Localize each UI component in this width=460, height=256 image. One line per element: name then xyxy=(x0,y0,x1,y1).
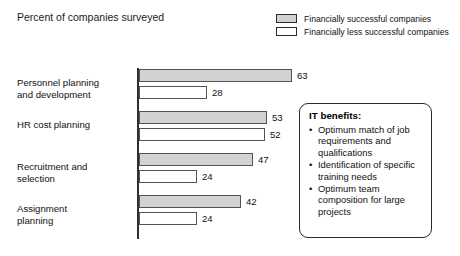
bar-successful xyxy=(139,69,292,82)
category-label-line1: Personnel planning xyxy=(17,77,99,88)
category-label-line1: Assignment xyxy=(17,203,67,214)
list-item: • Optimum team composition for large pro… xyxy=(309,183,424,217)
list-item-text: Optimum match of job requirements and qu… xyxy=(318,124,410,158)
callout-list: • Optimum match of job requirements and … xyxy=(309,124,424,217)
category-label-line1: Recruitment and xyxy=(17,161,87,172)
category-label-assignment-planning: Assignment planning xyxy=(17,203,135,226)
callout-title: IT benefits: xyxy=(309,110,424,122)
list-item-text: Optimum team composition for large proje… xyxy=(318,183,405,217)
category-label-line1: HR cost planning xyxy=(17,119,90,130)
bar-less-successful xyxy=(139,86,207,99)
category-label-line2: planning xyxy=(17,215,53,226)
chart-root: Percent of companies surveyed Financiall… xyxy=(0,0,460,256)
bar-successful xyxy=(139,195,241,208)
bar-value-successful: 42 xyxy=(246,195,257,208)
bar-value-successful: 63 xyxy=(297,69,308,82)
bar-value-less-successful: 52 xyxy=(270,128,281,141)
bar-value-successful: 47 xyxy=(258,153,269,166)
bar-value-less-successful: 28 xyxy=(212,86,223,99)
bullet-icon: • xyxy=(309,124,312,135)
bar-less-successful xyxy=(139,128,265,141)
bar-value-less-successful: 24 xyxy=(202,212,213,225)
bullet-icon: • xyxy=(309,159,312,170)
bar-less-successful xyxy=(139,170,197,183)
category-label-line2: selection xyxy=(17,173,55,184)
it-benefits-callout: IT benefits: • Optimum match of job requ… xyxy=(299,103,432,238)
list-item: • Optimum match of job requirements and … xyxy=(309,124,424,158)
bar-successful xyxy=(139,153,253,166)
list-item-text: Identification of specific training need… xyxy=(318,159,415,181)
category-label-personnel-planning: Personnel planning and development xyxy=(17,77,135,100)
list-item: • Identification of specific training ne… xyxy=(309,159,424,182)
category-label-line2: and development xyxy=(17,89,91,100)
bullet-icon: • xyxy=(309,183,312,194)
category-label-recruitment-selection: Recruitment and selection xyxy=(17,161,135,184)
bar-less-successful xyxy=(139,212,197,225)
category-label-hr-cost-planning: HR cost planning xyxy=(17,119,135,131)
bar-value-successful: 53 xyxy=(272,111,283,124)
bar-value-less-successful: 24 xyxy=(202,170,213,183)
bar-successful xyxy=(139,111,267,124)
